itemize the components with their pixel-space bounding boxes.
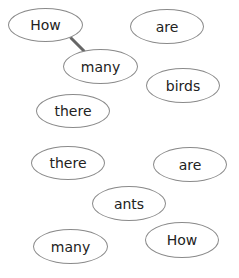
word-bubble-many-1[interactable]: many: [63, 49, 138, 84]
word-bubble-how-1[interactable]: How: [8, 8, 83, 42]
word-label: there: [54, 103, 91, 119]
word-bubble-many-2[interactable]: many: [33, 229, 108, 264]
word-bubble-there-1[interactable]: there: [36, 94, 110, 128]
word-label: many: [81, 59, 120, 75]
word-bubble-ants[interactable]: ants: [92, 186, 166, 221]
word-label: are: [156, 19, 179, 35]
word-bubble-are-2[interactable]: are: [153, 147, 227, 182]
word-label: ants: [114, 196, 144, 212]
word-label: birds: [166, 78, 200, 94]
word-label: How: [167, 232, 198, 248]
word-label: many: [51, 239, 90, 255]
word-label: are: [179, 157, 202, 173]
word-bubble-birds[interactable]: birds: [146, 68, 220, 103]
word-bubble-how-2[interactable]: How: [145, 222, 219, 258]
word-label: How: [30, 17, 61, 33]
connector-how-many[interactable]: [71, 38, 84, 51]
word-bubble-there-2[interactable]: there: [31, 146, 105, 180]
word-bubble-are-1[interactable]: are: [130, 9, 204, 44]
word-label: there: [49, 155, 86, 171]
